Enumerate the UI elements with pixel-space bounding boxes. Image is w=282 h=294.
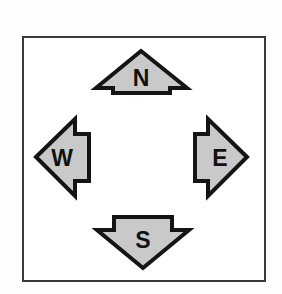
compass-rose-figure: N W E S [0,0,282,294]
north-arrow-label: N [133,65,150,91]
east-arrow-label: E [212,145,227,171]
west-arrow-label: W [51,145,73,171]
south-arrow-label: S [135,227,150,253]
compass-arrows-graphic: N W E S [0,0,282,294]
